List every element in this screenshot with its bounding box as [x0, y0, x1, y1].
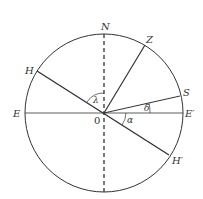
- label-horizon-left: H: [24, 65, 34, 76]
- star-line: [104, 96, 180, 113]
- label-origin: 0: [94, 115, 100, 126]
- label-delta: δ: [144, 103, 149, 113]
- zenith-line: [104, 45, 145, 113]
- label-zenith: Z: [145, 34, 154, 45]
- label-lambda: λ: [92, 95, 99, 105]
- label-star: S: [183, 87, 190, 98]
- label-horizon-right: H′: [171, 155, 184, 166]
- label-north: N: [100, 21, 111, 32]
- label-alpha: α: [127, 115, 133, 125]
- label-east: E: [12, 108, 21, 119]
- alpha-arc: [122, 113, 126, 125]
- label-east-prime: E′: [184, 108, 195, 119]
- diagram-canvas: N Z H S E E′ H′ 0 λ δ α: [0, 0, 203, 199]
